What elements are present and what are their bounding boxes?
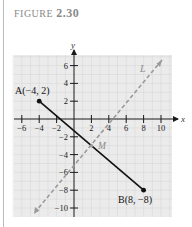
point-B-label: B(8, −8) bbox=[118, 194, 152, 206]
point-B bbox=[141, 188, 146, 193]
svg-text:−2: −2 bbox=[59, 132, 68, 142]
svg-text:2: 2 bbox=[89, 123, 93, 133]
svg-text:−4: −4 bbox=[35, 123, 45, 133]
svg-text:4: 4 bbox=[107, 123, 112, 133]
svg-text:8: 8 bbox=[141, 123, 145, 133]
svg-text:6: 6 bbox=[124, 123, 128, 133]
x-axis-label: x bbox=[180, 114, 185, 124]
svg-text:−6: −6 bbox=[59, 167, 68, 177]
svg-text:−10: −10 bbox=[55, 203, 68, 213]
svg-text:6: 6 bbox=[64, 61, 68, 71]
y-axis-label: y bbox=[70, 40, 75, 50]
point-M bbox=[90, 144, 94, 148]
x-tick-labels: −6 −4 −2 2 4 6 8 10 bbox=[17, 123, 165, 133]
svg-text:10: 10 bbox=[157, 123, 166, 133]
svg-text:−4: −4 bbox=[59, 150, 69, 160]
point-A bbox=[37, 99, 42, 104]
line-L-label: L bbox=[139, 63, 146, 74]
svg-text:−8: −8 bbox=[59, 185, 68, 195]
point-A-label: A(−4, 2) bbox=[15, 85, 50, 97]
svg-text:2: 2 bbox=[64, 96, 68, 106]
point-M-label: M bbox=[97, 141, 107, 151]
svg-text:−6: −6 bbox=[17, 123, 26, 133]
coordinate-plane: x y −6 −4 −2 2 4 6 8 10 6 4 2 −2 −4 −6 −… bbox=[0, 0, 192, 227]
grid-background bbox=[14, 55, 172, 217]
